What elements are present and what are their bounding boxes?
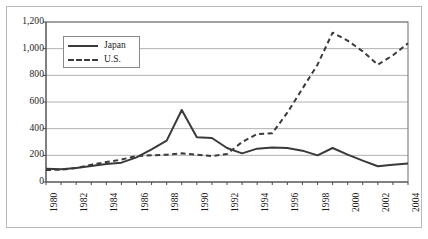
x-tick-label: 1988 <box>171 193 181 212</box>
x-tick-label: 1990 <box>201 193 211 212</box>
x-tick-label: 1982 <box>80 193 90 212</box>
legend-label-japan: Japan <box>99 41 126 51</box>
x-tick-label: 1994 <box>261 193 271 212</box>
chart-figure: 02004006008001,0001,200 1980198219841986… <box>0 0 428 239</box>
x-tick-label: 1986 <box>141 193 151 212</box>
x-tick-label: 2004 <box>412 193 422 212</box>
chart-legend: Japan U.S. <box>63 36 140 68</box>
legend-swatch-dashed-icon <box>67 55 99 65</box>
x-tick-label: 1998 <box>322 193 332 212</box>
x-tick-label: 2000 <box>352 193 362 212</box>
x-tick-label: 1984 <box>110 193 120 212</box>
x-tick-label: 1980 <box>50 193 60 212</box>
x-tick-label: 1992 <box>231 193 241 212</box>
legend-item-us: U.S. <box>67 53 136 67</box>
legend-item-japan: Japan <box>67 39 136 53</box>
x-tick-label: 2002 <box>382 193 392 212</box>
x-tick-label: 1996 <box>291 193 301 212</box>
legend-label-us: U.S. <box>99 55 121 65</box>
legend-swatch-solid-icon <box>67 41 99 51</box>
